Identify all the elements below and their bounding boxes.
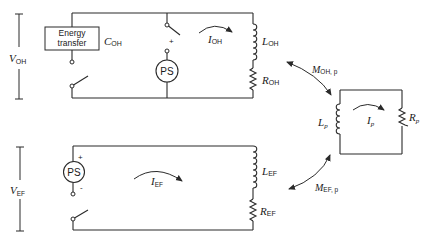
mutual-inductance-oh-arrow-icon <box>287 62 331 95</box>
svg-text:MEF, p: MEF, p <box>314 182 339 194</box>
oh-inductor-label: L <box>261 35 268 47</box>
oh-resistor-icon <box>250 68 256 90</box>
svg-text:IEF: IEF <box>150 175 163 188</box>
plasma-inductor-icon <box>336 104 340 134</box>
ef-inductor-label: L <box>261 165 268 177</box>
oh-circuit: VOH Energy transfer COH + <box>9 13 279 99</box>
plasma-inductor-label: L <box>317 116 324 128</box>
plasma-resistor-sub: p <box>415 117 420 125</box>
ef-ps-minus: - <box>80 183 83 192</box>
svg-text:VOH: VOH <box>9 52 26 65</box>
svg-text:LEF: LEF <box>261 165 277 177</box>
svg-text:Rp: Rp <box>408 111 420 125</box>
oh-resistor-sub: OH <box>269 79 280 86</box>
svg-text:REF: REF <box>259 205 276 217</box>
ef-inductor-icon <box>253 146 257 188</box>
ef-current-arrow-icon <box>134 171 182 181</box>
plasma-circuit: Ip Lp Rp <box>317 90 420 154</box>
coupling-oh-p: MOH, p <box>287 62 338 95</box>
oh-voltage-indicator: VOH <box>9 14 26 99</box>
ef-voltage-indicator: VEF <box>10 147 25 231</box>
oh-inductor-icon <box>253 24 257 60</box>
oh-inductor-sub: OH <box>268 40 279 47</box>
svg-text:Ip: Ip <box>366 114 375 128</box>
oh-ps-switch <box>165 23 180 35</box>
svg-text:MOH, p: MOH, p <box>311 64 338 76</box>
ef-current-sub: EF <box>155 181 163 188</box>
circuit-diagram: VOH Energy transfer COH + <box>0 0 429 243</box>
svg-text:VEF: VEF <box>10 184 25 197</box>
terminal-node <box>70 60 74 64</box>
ef-ps-label: PS <box>67 167 81 178</box>
ef-ps-terminal <box>71 192 75 196</box>
m-ef-p-sub: EF, p <box>323 186 338 194</box>
oh-voltage-sub: OH <box>16 58 27 65</box>
svg-text:ROH: ROH <box>261 74 279 86</box>
oh-power-supply: PS <box>156 60 178 82</box>
svg-text:Lp: Lp <box>317 116 328 130</box>
svg-text:IOH: IOH <box>207 33 222 45</box>
ef-ps-plus: + <box>78 153 83 162</box>
energy-transfer-line2: transfer <box>58 38 87 48</box>
ef-resistor-sub: EF <box>267 210 276 217</box>
ef-switch <box>71 210 88 221</box>
ef-inductor-sub: EF <box>268 170 277 177</box>
ef-power-supply: PS <box>64 162 85 183</box>
ef-circuit: VEF + PS - IEF LEF REF <box>10 146 277 231</box>
oh-current-arrow-icon <box>199 26 232 33</box>
oh-current-sub: OH <box>212 38 223 45</box>
capacitor-sub: OH <box>111 40 122 47</box>
oh-ps-label: PS <box>160 66 174 77</box>
oh-ps-terminal <box>165 49 169 53</box>
plasma-current-arrow-icon <box>353 105 384 111</box>
energy-transfer-box: Energy transfer <box>45 27 99 50</box>
coupling-ef-p: MEF, p <box>289 155 339 194</box>
mutual-inductance-ef-arrow-icon <box>289 155 330 189</box>
energy-transfer-line1: Energy <box>59 28 87 38</box>
ef-voltage-sub: EF <box>17 190 25 197</box>
svg-text:COH: COH <box>104 35 122 47</box>
ef-resistor-icon <box>250 199 256 221</box>
oh-left-switch <box>70 76 88 88</box>
plasma-current-sub: p <box>370 120 375 128</box>
svg-text:LOH: LOH <box>261 35 279 47</box>
plasma-resistor-icon <box>399 108 408 126</box>
plasma-inductor-sub: p <box>323 122 328 130</box>
m-oh-p-sub: OH, p <box>320 68 337 76</box>
oh-ps-plus: + <box>169 37 174 46</box>
